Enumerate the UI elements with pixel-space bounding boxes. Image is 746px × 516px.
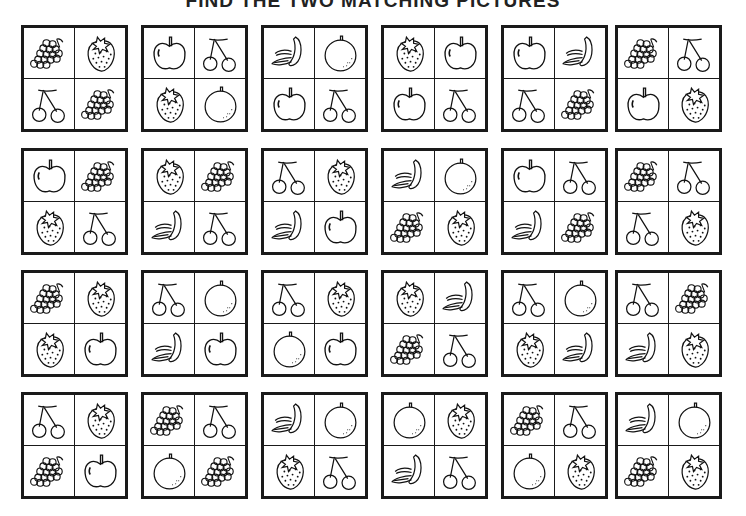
apple-icon <box>509 33 550 74</box>
puzzle-cell <box>315 79 366 130</box>
puzzle-cell <box>75 395 126 446</box>
puzzle-cell <box>195 151 246 202</box>
puzzle-card[interactable] <box>381 148 488 255</box>
cherries-icon <box>623 207 664 248</box>
puzzle-card[interactable] <box>261 270 368 377</box>
puzzle-cell <box>195 79 246 130</box>
puzzle-cell <box>264 273 315 324</box>
puzzle-card[interactable] <box>615 148 722 255</box>
puzzle-card[interactable] <box>21 270 128 377</box>
puzzle-cell <box>435 395 486 446</box>
puzzle-cell <box>144 79 195 130</box>
puzzle-cell <box>144 151 195 202</box>
puzzle-cell <box>504 324 555 375</box>
puzzle-cell <box>75 79 126 130</box>
grapes-icon <box>80 156 121 197</box>
puzzle-cell <box>315 273 366 324</box>
banana-icon <box>269 207 310 248</box>
puzzle-card[interactable] <box>381 25 488 132</box>
puzzle-cell <box>669 151 720 202</box>
puzzle-cell <box>24 324 75 375</box>
cherries-icon <box>29 84 70 125</box>
puzzle-card[interactable] <box>615 25 722 132</box>
apple-icon <box>320 329 361 370</box>
banana-icon <box>149 207 190 248</box>
puzzle-cell <box>75 324 126 375</box>
puzzle-cell <box>264 28 315 79</box>
strawberry-icon <box>29 207 70 248</box>
puzzle-cell <box>195 273 246 324</box>
apple-icon <box>509 156 550 197</box>
puzzle-cell <box>384 202 435 253</box>
cherries-icon <box>320 451 361 492</box>
banana-icon <box>389 156 430 197</box>
puzzle-cell <box>315 446 366 497</box>
puzzle-card[interactable] <box>615 392 722 499</box>
strawberry-icon <box>674 207 715 248</box>
grapes-icon <box>623 451 664 492</box>
cherries-icon <box>560 156 601 197</box>
puzzle-cell <box>555 28 606 79</box>
puzzle-card[interactable] <box>261 148 368 255</box>
cherries-icon <box>440 329 481 370</box>
grapes-icon <box>29 33 70 74</box>
apple-icon <box>29 156 70 197</box>
banana-icon <box>623 329 664 370</box>
puzzle-card[interactable] <box>21 148 128 255</box>
puzzle-cell <box>669 273 720 324</box>
strawberry-icon <box>320 156 361 197</box>
strawberry-icon <box>80 33 121 74</box>
puzzle-cell <box>435 324 486 375</box>
puzzle-cell <box>555 202 606 253</box>
puzzle-card[interactable] <box>501 148 608 255</box>
puzzle-card[interactable] <box>501 392 608 499</box>
puzzle-cell <box>315 28 366 79</box>
puzzle-cell <box>195 28 246 79</box>
puzzle-cell <box>144 324 195 375</box>
banana-icon <box>509 207 550 248</box>
puzzle-card[interactable] <box>141 392 248 499</box>
strawberry-icon <box>389 278 430 319</box>
puzzle-card[interactable] <box>261 25 368 132</box>
puzzle-cell <box>618 273 669 324</box>
puzzle-cell <box>315 324 366 375</box>
apple-icon <box>269 84 310 125</box>
puzzle-cell <box>75 28 126 79</box>
puzzle-card[interactable] <box>501 270 608 377</box>
orange-icon <box>440 156 481 197</box>
puzzle-card[interactable] <box>141 25 248 132</box>
grapes-icon <box>560 84 601 125</box>
puzzle-cell <box>315 395 366 446</box>
puzzle-cell <box>504 273 555 324</box>
puzzle-cell <box>669 446 720 497</box>
puzzle-card[interactable] <box>141 270 248 377</box>
puzzle-cell <box>264 395 315 446</box>
banana-icon <box>440 278 481 319</box>
cherries-icon <box>269 278 310 319</box>
puzzle-cell <box>384 324 435 375</box>
puzzle-card[interactable] <box>141 148 248 255</box>
puzzle-card[interactable] <box>381 270 488 377</box>
puzzle-cell <box>618 28 669 79</box>
puzzle-card[interactable] <box>21 25 128 132</box>
puzzle-cell <box>669 395 720 446</box>
puzzle-card[interactable] <box>615 270 722 377</box>
puzzle-card[interactable] <box>381 392 488 499</box>
orange-icon <box>200 278 241 319</box>
puzzle-cell <box>144 395 195 446</box>
puzzle-card[interactable] <box>21 392 128 499</box>
puzzle-cell <box>384 151 435 202</box>
cherries-icon <box>269 156 310 197</box>
puzzle-cell <box>435 446 486 497</box>
puzzle-card[interactable] <box>261 392 368 499</box>
puzzle-cell <box>435 151 486 202</box>
cherries-icon <box>80 207 121 248</box>
strawberry-icon <box>440 400 481 441</box>
puzzle-cell <box>555 324 606 375</box>
puzzle-card[interactable] <box>501 25 608 132</box>
puzzle-cell <box>144 28 195 79</box>
banana-icon <box>560 329 601 370</box>
puzzle-cell <box>264 324 315 375</box>
cherries-icon <box>509 84 550 125</box>
puzzle-cell <box>144 273 195 324</box>
